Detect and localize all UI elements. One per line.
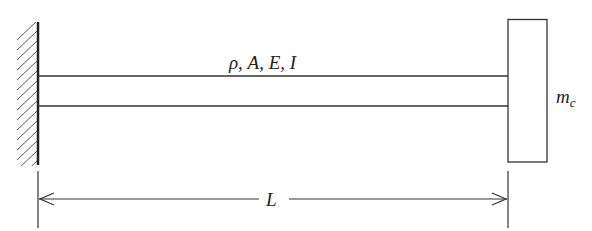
fixed-wall-support <box>17 20 38 180</box>
cantilever-diagram: ρ, A, E, I mc L <box>0 0 592 231</box>
length-label: L <box>265 189 277 210</box>
beam-properties-label: ρ, A, E, I <box>228 52 298 73</box>
beam <box>38 76 508 106</box>
tip-mass-label: mc <box>556 86 576 110</box>
tip-mass <box>508 20 547 163</box>
